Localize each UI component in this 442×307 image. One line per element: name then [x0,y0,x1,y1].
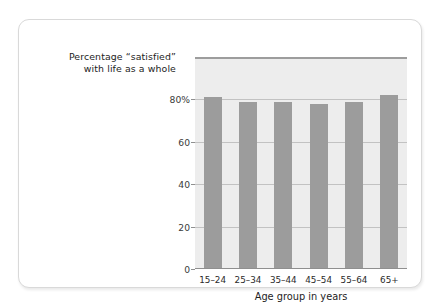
figure-card: Percentage “satisfied” with life as a wh… [18,19,422,288]
y-tick-mark [191,269,195,270]
bar [239,102,257,269]
axis-baseline [195,268,407,269]
y-tick-label: 60 [178,136,190,147]
chart-title-line-1: Percentage “satisfied” [31,51,176,63]
x-axis-title: Age group in years [255,291,348,302]
x-tick-label: 65+ [380,275,399,285]
bar [274,102,292,269]
y-tick-label: 0 [184,264,190,275]
bar [204,97,222,269]
y-tick-label: 80% [170,94,190,105]
bars [195,57,407,269]
y-tick-label: 40 [178,179,190,190]
x-tick-label: 35–44 [270,275,297,285]
x-tick-label: 15–24 [199,275,226,285]
bar [380,95,398,269]
bar [345,102,363,269]
x-tick-label: 55–64 [341,275,368,285]
x-tick-label: 25–34 [235,275,262,285]
y-tick-label: 20 [178,221,190,232]
chart-title-line-2: with life as a whole [31,63,176,75]
plot-area: 020406080% 15–2425–3435–4445–5455–6465+ … [195,57,407,269]
bar [310,104,328,269]
x-tick-label: 45–54 [305,275,332,285]
chart-title: Percentage “satisfied” with life as a wh… [31,51,176,76]
